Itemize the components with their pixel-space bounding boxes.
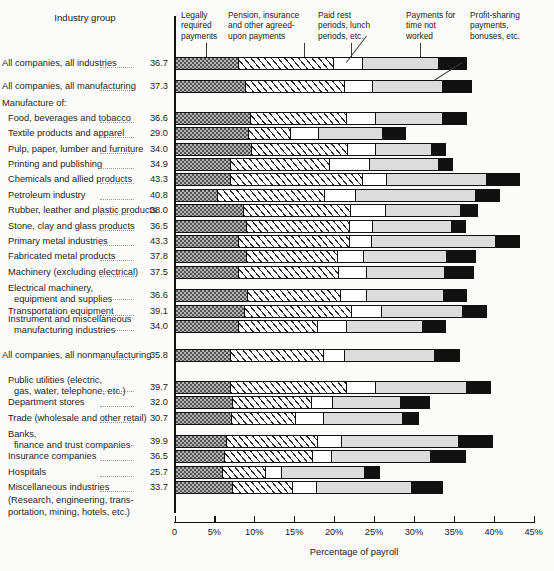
stacked-bar[interactable] — [175, 305, 487, 318]
x-tick-45 — [534, 516, 535, 523]
bar-segment-s3 — [373, 81, 443, 92]
x-axis-line — [174, 522, 534, 523]
bar-segment-s0 — [176, 159, 231, 170]
bar-segment-s3 — [345, 350, 435, 361]
bar-segment-s0 — [176, 236, 239, 247]
bar-segment-s2 — [347, 382, 376, 393]
bar-segment-s3 — [319, 128, 383, 139]
bar-segment-s1 — [248, 290, 342, 301]
row-total-value: 39.9 — [138, 436, 168, 446]
row-label: Department stores — [8, 397, 84, 407]
bar-segment-s2 — [363, 174, 388, 185]
row-label: Electrical machinery,equipment and suppl… — [8, 283, 112, 305]
x-tick-label-20: 20% — [325, 527, 343, 537]
stacked-bar[interactable] — [175, 435, 493, 448]
bar-segment-s3 — [373, 221, 452, 232]
x-tick-label-40: 40% — [484, 527, 502, 537]
bar-segment-s4 — [459, 436, 492, 447]
bar-segment-s0 — [176, 397, 233, 408]
bar-segment-s4 — [365, 467, 378, 478]
bar-segment-s1 — [251, 113, 348, 124]
x-tick-label-0: 0 — [172, 527, 177, 537]
stacked-bar[interactable] — [175, 396, 430, 409]
bar-segment-s4 — [461, 205, 477, 216]
row-total-value: 37.3 — [138, 81, 168, 91]
stacked-bar[interactable] — [175, 466, 380, 479]
stacked-bar[interactable] — [175, 235, 521, 248]
bar-segment-s1 — [247, 251, 338, 262]
bar-segment-s2 — [318, 436, 342, 447]
stacked-bar[interactable] — [175, 349, 461, 362]
row-total-value: 36.5 — [138, 221, 168, 231]
bar-segment-s3 — [376, 144, 432, 155]
row-label: Instrument and miscellaneousmanufacturin… — [8, 314, 132, 336]
x-tick-40 — [494, 516, 495, 523]
bar-segment-s2 — [324, 350, 345, 361]
stacked-bar[interactable] — [175, 57, 468, 70]
stacked-bar[interactable] — [175, 112, 467, 125]
stacked-bar[interactable] — [175, 320, 446, 333]
bar-segment-s3 — [367, 267, 445, 278]
bar-segment-s0 — [176, 113, 251, 124]
stacked-bar[interactable] — [175, 158, 454, 171]
row-total-value: 30.7 — [138, 413, 168, 423]
bar-segment-s0 — [176, 436, 228, 447]
row-total-value: 34.9 — [138, 159, 168, 169]
row-total-value: 29.0 — [138, 128, 168, 138]
stacked-bar[interactable] — [175, 266, 474, 279]
x-tick-label-25: 25% — [365, 527, 383, 537]
stacked-bar[interactable] — [175, 289, 467, 302]
bar-segment-s4 — [412, 482, 443, 493]
row-total-value: 43.3 — [138, 236, 168, 246]
stacked-bar[interactable] — [175, 173, 521, 186]
row-dot-leader — [100, 198, 134, 200]
stacked-bar[interactable] — [175, 381, 492, 394]
stacked-bar[interactable] — [175, 127, 406, 140]
bar-segment-s4 — [439, 159, 452, 170]
x-tick-label-15: 15% — [285, 527, 303, 537]
bar-segment-s1 — [252, 144, 349, 155]
bar-segment-s3 — [376, 382, 467, 393]
bar-segment-s3 — [333, 397, 401, 408]
bar-segment-s0 — [176, 350, 231, 361]
bar-segment-s2 — [325, 190, 357, 201]
bar-segment-s1 — [218, 190, 325, 201]
bar-segment-s0 — [176, 251, 247, 262]
bar-segment-s1 — [227, 436, 318, 447]
row-label-line-1: Electrical machinery, — [8, 283, 112, 294]
stacked-bar[interactable] — [175, 220, 466, 233]
bar-segment-s4 — [403, 413, 418, 424]
bar-segment-s1 — [232, 413, 295, 424]
stacked-bar[interactable] — [175, 412, 420, 425]
bar-segment-s3 — [324, 413, 403, 424]
row-total-value: 37.8 — [138, 251, 168, 261]
x-tick-label-35: 35% — [445, 527, 463, 537]
bar-segment-s3 — [386, 205, 461, 216]
row-dot-leader — [100, 89, 134, 91]
row-total-value: 36.6 — [138, 113, 168, 123]
row-label: Printing and publishing — [8, 159, 102, 169]
row-total-value: 38.0 — [138, 205, 168, 215]
bar-segment-s3 — [332, 451, 431, 462]
bar-segment-s2 — [339, 267, 367, 278]
row-dot-leader — [100, 459, 134, 461]
bar-segment-s4 — [496, 236, 519, 247]
chart-rows: All companies, all industries36.7All com… — [0, 0, 554, 514]
bar-segment-s4 — [463, 306, 485, 317]
row-total-value: 33.7 — [138, 482, 168, 492]
x-tick-label-10: 10% — [245, 527, 263, 537]
stacked-bar[interactable] — [175, 204, 478, 217]
row-total-value: 34.0 — [138, 321, 168, 331]
row-dot-leader — [100, 275, 134, 277]
row-total-value: 36.7 — [138, 58, 168, 68]
stacked-bar[interactable] — [175, 189, 501, 202]
bar-segment-s0 — [176, 482, 234, 493]
stacked-bar[interactable] — [175, 250, 477, 263]
row-label-line-1: Instrument and miscellaneous — [8, 314, 132, 325]
legend-leader-0 — [206, 43, 207, 57]
stacked-bar[interactable] — [175, 143, 446, 156]
x-tick-30 — [414, 516, 415, 523]
stacked-bar[interactable] — [175, 450, 466, 463]
stacked-bar[interactable] — [175, 80, 473, 93]
stacked-bar[interactable] — [175, 481, 444, 494]
